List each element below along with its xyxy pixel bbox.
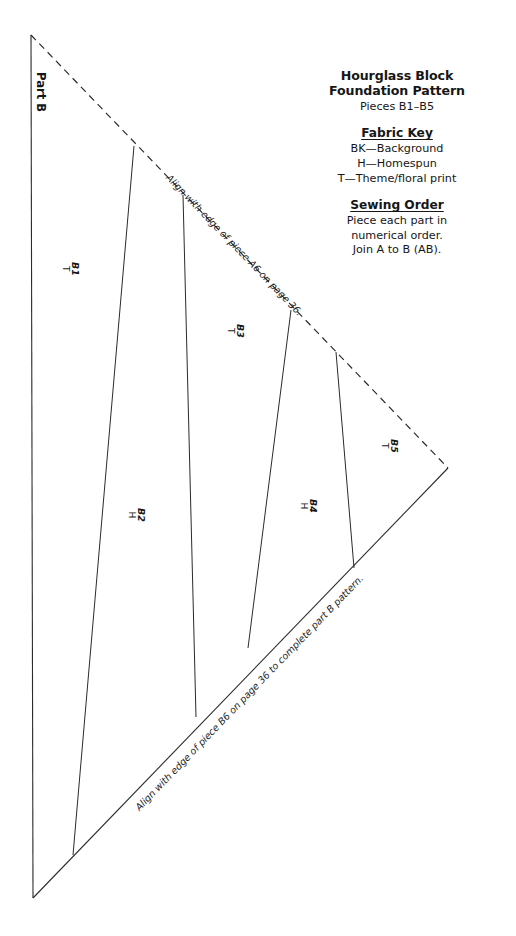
piece-fabric-b5: T (379, 439, 389, 453)
fabric-key-entry-bk: BK—Background (306, 142, 488, 156)
piece-label-b5: B5 T (379, 439, 399, 453)
piece-fabric-b4: H (298, 499, 308, 513)
legend-title-line-2: Foundation Pattern (306, 83, 488, 98)
sewing-order-line-1: Piece each part in (306, 214, 488, 228)
fabric-key-entry-h: H—Homespun (306, 157, 488, 171)
legend-subtitle: Pieces B1–B5 (306, 100, 488, 114)
piece-id-b4: B4 (308, 499, 318, 513)
fabric-key-entry-t: T—Theme/floral print (306, 172, 488, 186)
piece-id-b1: B1 (70, 262, 80, 276)
seam-line-b4-b5 (336, 352, 354, 568)
seam-line-b2-b3 (183, 195, 196, 717)
piece-fabric-b1: T (60, 262, 70, 276)
sewing-order-line-2: numerical order. (306, 229, 488, 243)
piece-fabric-b2: H (126, 508, 136, 522)
seam-line-b1-b2 (73, 146, 134, 855)
piece-label-b3: B3 T (225, 324, 245, 338)
piece-label-b4: B4 H (298, 499, 318, 513)
sewing-order-section: Sewing Order Piece each part in numerica… (306, 198, 488, 257)
piece-label-b1: B1 T (60, 262, 80, 276)
part-label: Part B (34, 72, 48, 112)
fabric-key-heading: Fabric Key (306, 126, 488, 141)
sewing-order-line-3: Join A to B (AB). (306, 243, 488, 257)
fabric-key-section: Fabric Key BK—Background H—Homespun T—Th… (306, 126, 488, 185)
pattern-left-edge (31, 35, 33, 898)
legend-title-line-1: Hourglass Block (306, 68, 488, 83)
piece-id-b5: B5 (389, 439, 399, 453)
piece-id-b2: B2 (136, 508, 146, 522)
legend-panel: Hourglass Block Foundation Pattern Piece… (306, 68, 488, 257)
piece-label-b2: B2 H (126, 508, 146, 522)
pattern-bottom-edge (33, 468, 448, 898)
piece-id-b3: B3 (235, 324, 245, 338)
sewing-order-heading: Sewing Order (306, 198, 488, 213)
piece-fabric-b3: T (225, 324, 235, 338)
seam-line-b3-b4 (248, 310, 291, 648)
